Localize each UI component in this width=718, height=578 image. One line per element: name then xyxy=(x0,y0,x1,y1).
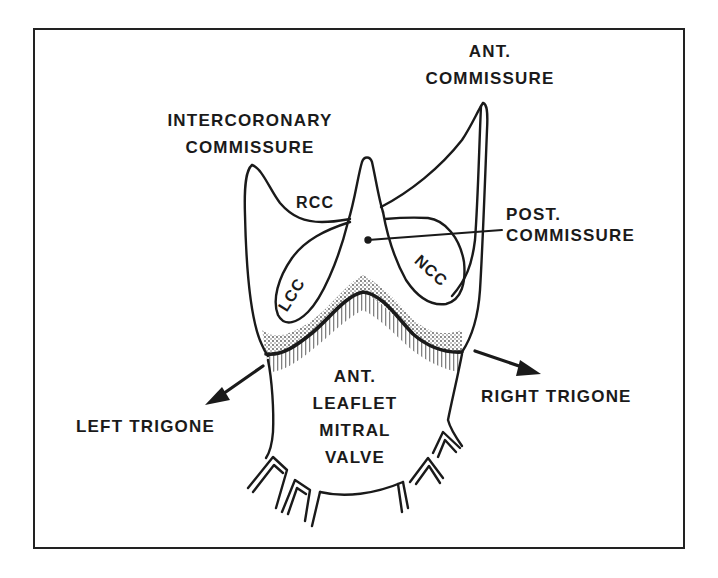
label-line: MITRAL xyxy=(295,417,415,444)
chorda xyxy=(248,457,287,508)
label-line: ANT. xyxy=(410,38,570,65)
chorda xyxy=(312,492,320,526)
central-commissure xyxy=(348,158,383,223)
label-ant-commissure: ANT. COMMISSURE xyxy=(410,38,570,92)
label-post-commissure: POST. COMMISSURE xyxy=(506,204,635,246)
label-line: INTERCORONARY xyxy=(150,107,350,134)
label-line: COMMISSURE xyxy=(410,65,570,92)
label-left-trigone: LEFT TRIGONE xyxy=(76,413,215,440)
ant-commissure-left-line xyxy=(381,103,483,207)
label-line: VALVE xyxy=(295,444,415,471)
left-trigone-arrow xyxy=(205,366,263,405)
chorda xyxy=(282,480,310,521)
pointer-dot xyxy=(366,238,371,243)
label-line: ANT. xyxy=(295,363,415,390)
anatomy-drawing xyxy=(0,0,718,578)
label-line: LEAFLET xyxy=(295,390,415,417)
chorda xyxy=(398,484,402,512)
right-trigone-arrow xyxy=(475,351,541,376)
label-line: COMMISSURE xyxy=(150,134,350,161)
aortic-mitral-continuity-diagram: ANT. COMMISSURE INTERCORONARY COMMISSURE… xyxy=(0,0,718,578)
label-line: COMMISSURE xyxy=(506,225,635,246)
leaflet-bottom-arc xyxy=(320,482,403,495)
left-column-edge xyxy=(245,165,268,356)
leaflet-left-edge xyxy=(266,360,273,458)
chorda xyxy=(253,465,283,492)
label-rcc: RCC xyxy=(296,189,334,216)
label-line: POST. xyxy=(506,204,635,225)
label-right-trigone: RIGHT TRIGONE xyxy=(481,383,632,410)
label-ant-leaflet-mitral-valve: ANT. LEAFLET MITRAL VALVE xyxy=(295,363,415,471)
label-intercoronary-commissure: INTERCORONARY COMMISSURE xyxy=(150,107,350,161)
chorda xyxy=(403,482,408,508)
